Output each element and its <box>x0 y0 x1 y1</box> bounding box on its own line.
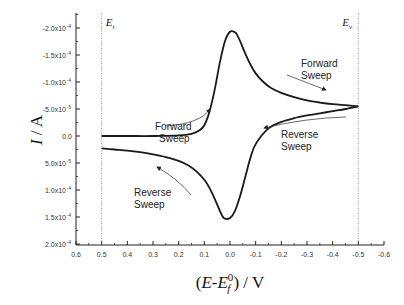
y-tick-label-exponent: -5 <box>67 159 71 164</box>
y-axis-title-unit: / A <box>27 114 46 139</box>
annotation-reverse-2: Reverse Sweep <box>134 167 191 210</box>
x-tick-label: 0.3 <box>148 251 158 258</box>
x-title-E: E <box>200 273 212 292</box>
x-tick-label: -0.3 <box>301 251 313 258</box>
y-tick-label-exponent: -5 <box>67 105 71 110</box>
y-tick-label: -2.0x10 <box>43 25 66 32</box>
y-tick-label: -1.5x10 <box>43 52 66 59</box>
annotation-reverse-1: Reverse Sweep <box>264 117 346 152</box>
vertical-marker-label: Ev <box>341 16 353 31</box>
annotation-text: Sweep <box>134 199 165 210</box>
vertical-markers: EiEv <box>102 13 359 245</box>
y-axis-title: I / A <box>27 114 46 146</box>
x-tick-label: 0.5 <box>97 251 107 258</box>
arrow-icon <box>264 117 346 128</box>
y-tick-label: 0.0 <box>62 133 72 140</box>
x-axis-title: (E-E0f) / V <box>196 271 265 294</box>
y-ticks: -2.0x10-4-1.5x10-4-1.0x10-4-5.0x10-50.05… <box>43 15 80 248</box>
x-tick-label: -0.5 <box>352 251 364 258</box>
annotation-text: Reverse <box>134 187 172 198</box>
x-tick-label: 0.6 <box>71 251 81 258</box>
y-tick-label: -5.0x10 <box>43 106 66 113</box>
y-tick-label-exponent: -4 <box>67 24 71 29</box>
annotation-forward-2: Forward Sweep <box>287 58 338 90</box>
y-tick-label: 1.5x10 <box>45 214 66 221</box>
y-tick-label: 5.0x10 <box>45 160 66 167</box>
y-tick-label: -1.0x10 <box>43 79 66 86</box>
y-tick-label: 1.0x10 <box>45 187 66 194</box>
y-tick-label-exponent: -4 <box>67 240 71 245</box>
y-tick-label-exponent: -4 <box>67 213 71 218</box>
vertical-marker-label-sub: v <box>349 23 353 31</box>
x-tick-label: 0.2 <box>174 251 184 258</box>
x-tick-label: 0.1 <box>199 251 209 258</box>
y-tick-label: 2.0x10 <box>45 241 66 248</box>
axes <box>76 13 384 245</box>
annotation-text: Forward <box>155 121 192 132</box>
x-tick-label: 0.4 <box>122 251 132 258</box>
x-tick-label: 0.0 <box>225 251 235 258</box>
annotation-text: Reverse <box>281 129 319 140</box>
y-tick-label-exponent: -4 <box>67 78 71 83</box>
annotation-text: Forward <box>301 58 338 69</box>
annotation-text: Sweep <box>281 141 312 152</box>
x-tick-label: -0.1 <box>250 251 262 258</box>
y-tick-label-exponent: -4 <box>67 51 71 56</box>
annotation-text: Sweep <box>159 133 190 144</box>
vertical-marker-label-sub: i <box>112 23 114 31</box>
annotation-text: Sweep <box>301 70 332 81</box>
x-tick-label: -0.6 <box>378 251 390 258</box>
x-tick-label: -0.2 <box>275 251 287 258</box>
forward-sweep-line <box>102 31 359 136</box>
x-title-close: ) / V <box>233 273 265 292</box>
x-ticks: 0.60.50.40.30.20.10.0-0.1-0.2-0.3-0.4-0.… <box>71 241 390 258</box>
vertical-marker-label: Ei <box>105 16 115 31</box>
annotation-forward-1: Forward Sweep <box>155 109 210 144</box>
x-title-sub: f <box>227 282 232 294</box>
cyclic-voltammogram-chart: 0.60.50.40.30.20.10.0-0.1-0.2-0.3-0.4-0.… <box>0 0 404 305</box>
x-tick-label: -0.4 <box>327 251 339 258</box>
y-tick-label-exponent: -4 <box>67 186 71 191</box>
